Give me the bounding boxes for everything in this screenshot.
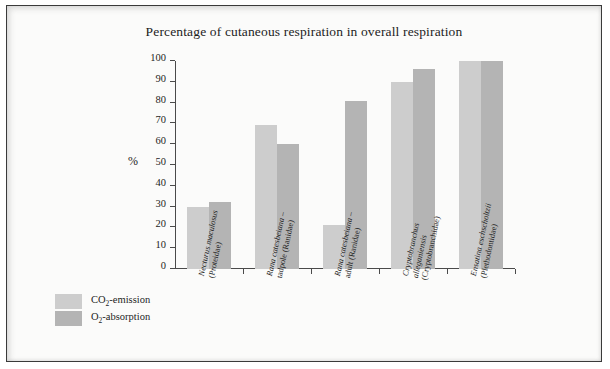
y-tick-label: 50 <box>156 156 167 167</box>
legend-swatch <box>55 294 82 309</box>
y-tick: 50 <box>170 164 175 165</box>
y-tick: 20 <box>170 226 175 227</box>
y-tick: 60 <box>170 143 175 144</box>
legend-label: CO2-emission <box>91 294 150 308</box>
y-axis-title: % <box>128 154 138 169</box>
x-tick <box>515 269 516 274</box>
y-tick: 30 <box>170 206 175 207</box>
y-tick-label: 40 <box>156 177 167 188</box>
y-tick-label: 90 <box>156 73 167 84</box>
y-tick-label: 30 <box>156 198 167 209</box>
y-tick: 10 <box>170 247 175 248</box>
chart-title: Percentage of cutaneous respiration in o… <box>7 24 601 40</box>
legend-swatch <box>55 311 82 326</box>
y-tick: 100 <box>170 60 175 61</box>
y-tick: 70 <box>170 122 175 123</box>
x-tick <box>311 269 312 274</box>
y-tick: 80 <box>170 102 175 103</box>
y-tick-label: 60 <box>156 135 167 146</box>
y-tick-label: 0 <box>161 260 166 271</box>
y-tick-label: 70 <box>156 114 167 125</box>
legend-item: O2-absorption <box>55 310 150 327</box>
y-tick-label: 80 <box>156 94 167 105</box>
x-tick <box>447 269 448 274</box>
y-tick-label: 20 <box>156 218 167 229</box>
legend-label: O2-absorption <box>91 311 150 325</box>
y-tick: 90 <box>170 81 175 82</box>
y-tick-label: 10 <box>156 239 167 250</box>
legend-item: CO2-emission <box>55 293 150 310</box>
y-tick: 0 <box>170 268 175 269</box>
x-tick <box>243 269 244 274</box>
chart-legend: CO2-emissionO2-absorption <box>55 293 150 327</box>
chart-frame: Percentage of cutaneous respiration in o… <box>6 5 602 362</box>
y-axis-line <box>175 61 176 269</box>
x-tick <box>379 269 380 274</box>
y-tick: 40 <box>170 185 175 186</box>
y-tick-label: 100 <box>150 52 166 63</box>
